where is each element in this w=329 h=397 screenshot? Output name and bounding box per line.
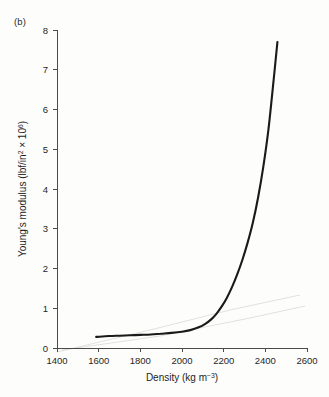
x-tick-label: 2400	[255, 355, 276, 366]
x-tick-label: 1800	[130, 355, 151, 366]
chart-canvas: 0 1 2 3 4 5 6 7 8 1400 1600 1800 2000 22…	[0, 0, 329, 397]
x-tick-label: 1400	[46, 355, 67, 366]
y-tick-label: 8	[43, 25, 48, 36]
y-tick-label: 4	[43, 184, 48, 195]
x-tick-label: 2200	[213, 355, 234, 366]
y-tick-label: 3	[43, 223, 48, 234]
y-tick-label: 6	[43, 104, 48, 115]
y-tick-label: 5	[43, 144, 48, 155]
y-tick-label: 7	[43, 64, 48, 75]
x-tick-label: 2600	[296, 355, 317, 366]
y-axis-title-mid: × 10	[17, 128, 28, 151]
y-tick-group	[53, 30, 57, 348]
y-axis-title: Young's modulus (lbf/in2 × 106)	[17, 121, 29, 257]
scan-bleed-through-group	[57, 295, 305, 352]
y-tick-label: 2	[43, 263, 48, 274]
y-tick-label: 1	[43, 303, 48, 314]
x-axis-title-base: Density (kg m	[146, 372, 207, 383]
y-tick-label: 0	[43, 343, 48, 354]
x-tick-label: 2000	[171, 355, 192, 366]
y-axis-title-base: Young's modulus (lbf/in	[17, 154, 28, 257]
axes-group	[57, 30, 307, 348]
y-axis-title-close: )	[17, 121, 28, 124]
data-curve	[96, 42, 277, 337]
figure-panel: (b) 0 1 2 3 4	[0, 0, 329, 397]
x-tick-group	[57, 348, 307, 352]
x-tick-labels: 1400 1600 1800 2000 2200 2400 2600	[46, 355, 317, 366]
x-axis-title-close: )	[215, 372, 218, 383]
x-tick-label: 1600	[88, 355, 109, 366]
y-tick-labels: 0 1 2 3 4 5 6 7 8	[43, 25, 48, 354]
x-axis-title: Density (kg m−3)	[146, 372, 218, 384]
